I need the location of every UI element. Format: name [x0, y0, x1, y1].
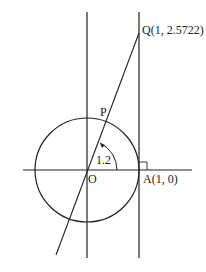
label-A: A(1, 0)	[143, 172, 178, 186]
label-angle: 1.2	[96, 153, 111, 167]
arc-arrowhead-icon	[100, 143, 105, 148]
line-OQ	[56, 33, 139, 255]
label-P: P	[100, 105, 107, 119]
label-Q: Q(1, 2.5722)	[142, 23, 204, 37]
unit-circle-diagram: Q(1, 2.5722) P 1.2 O A(1, 0)	[0, 0, 206, 272]
right-angle-marker	[139, 162, 147, 170]
label-O: O	[88, 172, 97, 186]
